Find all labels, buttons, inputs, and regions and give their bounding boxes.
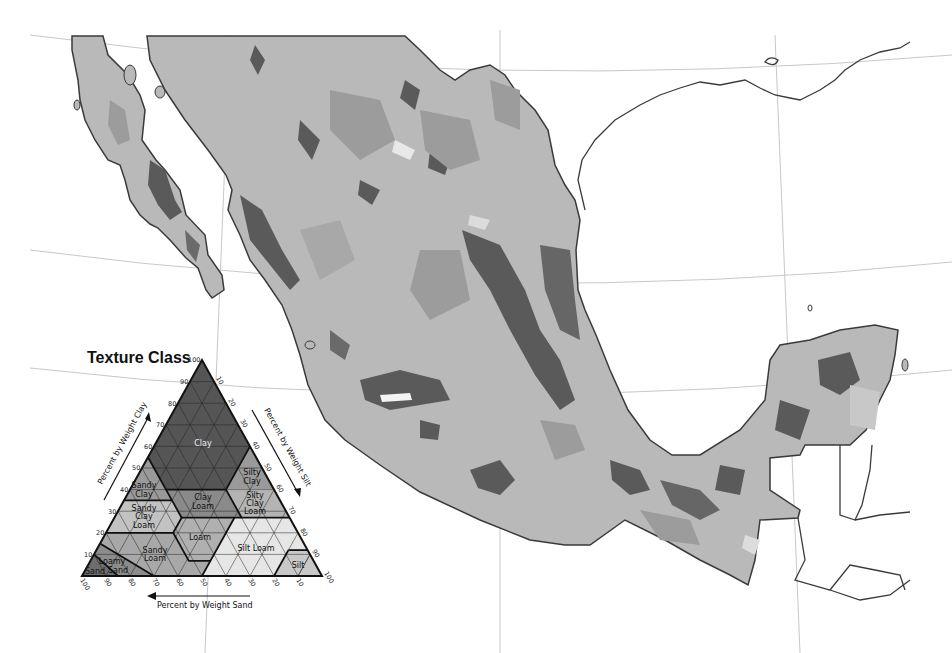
- silt-tick: 100: [322, 570, 335, 585]
- arrow-down-icon: [294, 488, 301, 497]
- clay-tick: 30: [108, 508, 116, 516]
- arrow-left-icon: [147, 592, 156, 600]
- label-sand: Sand: [85, 567, 105, 576]
- sand-tick: 20: [270, 577, 281, 588]
- legend-title: Texture Class: [87, 349, 191, 366]
- label-clay-loam-1: Clay: [194, 493, 212, 502]
- clay-tick: 60: [144, 443, 152, 451]
- clay-tick: 10: [84, 551, 92, 559]
- sand-tick: 10: [294, 577, 305, 588]
- label-sandy-clay-2: Clay: [135, 490, 153, 499]
- label-silty-clay-loam-3: Loam: [244, 507, 266, 516]
- clay-tick: 80: [168, 400, 176, 408]
- label-sandy-clay-loam-2: Clay: [135, 512, 153, 521]
- label-silt-loam: Silt Loam: [237, 544, 274, 553]
- arrow-up-icon: [145, 412, 151, 422]
- sand-axis: Percent by Weight Sand: [147, 592, 253, 610]
- sand-tick: 70: [150, 577, 161, 588]
- sand-tick: 100: [78, 577, 91, 592]
- clay-tick: 90: [180, 378, 188, 386]
- label-sandy-clay-1: Sandy: [132, 481, 157, 490]
- label-loam: Loam: [189, 533, 211, 542]
- label-sandy-clay-loam-3: Loam: [133, 521, 155, 530]
- clay-tick: 100: [188, 356, 200, 364]
- label-silty-clay-2: Clay: [243, 477, 261, 486]
- label-silt: Silt: [292, 561, 305, 570]
- clay-tick: 40: [120, 486, 128, 494]
- sand-axis-label: Percent by Weight Sand: [157, 601, 253, 610]
- sand-tick: 40: [222, 577, 233, 588]
- label-clay: Clay: [194, 439, 212, 448]
- label-loamy-sand-2: Sand: [108, 566, 128, 575]
- label-sandy-loam-2: Loam: [144, 554, 166, 563]
- label-silty-clay-1: Silty: [243, 468, 261, 477]
- sand-ticks: 100 90 80 70 60 50 40 30 20 10: [78, 577, 305, 592]
- soil-texture-map: Texture Class: [0, 0, 952, 653]
- label-clay-loam-2: Loam: [192, 502, 214, 511]
- clay-tick: 70: [156, 421, 164, 429]
- silt-axis-label: Percent by Weight Silt: [262, 407, 313, 488]
- clay-tick: 20: [96, 529, 104, 537]
- clay-tick: 50: [132, 464, 140, 472]
- sand-tick: 90: [102, 577, 113, 588]
- sand-tick: 80: [126, 577, 137, 588]
- texture-class-legend: Texture Class: [78, 349, 335, 610]
- sand-tick: 60: [174, 577, 185, 588]
- sand-tick: 30: [246, 577, 257, 588]
- label-loamy-sand-1: Loamy: [99, 557, 126, 566]
